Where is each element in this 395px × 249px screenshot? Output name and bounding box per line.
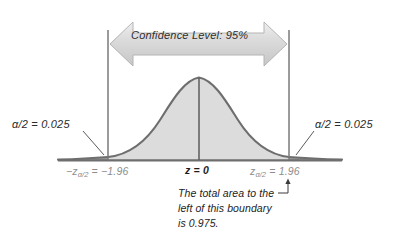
tick-right-value: = 1.96: [266, 165, 300, 177]
caption-line-3: is 0.975.: [178, 216, 274, 231]
tick-left-symbol: −z: [66, 165, 78, 177]
right-alpha-leader-line: [296, 131, 314, 155]
caption-leader-line: [278, 183, 288, 193]
caption-line-1: The total area to the: [178, 186, 274, 201]
alpha-right-label: α/2 = 0.025: [315, 118, 373, 131]
caption-block: The total area to the left of this bound…: [178, 186, 274, 231]
confidence-level-label: Confidence Level: 95%: [131, 29, 248, 42]
axis-tick-left-critical-value: −zα/2 = −1.96: [66, 165, 129, 180]
caption-line-2: left of this boundary: [178, 201, 274, 216]
tick-left-subscript: α/2: [78, 170, 89, 179]
alpha-left-label: α/2 = 0.025: [12, 118, 70, 131]
axis-tick-right-critical-value: zα/2 = 1.96: [250, 165, 300, 180]
tick-right-subscript: α/2: [255, 170, 266, 179]
normal-distribution-figure: Confidence Level: 95% α/2 = 0.025 α/2 = …: [0, 0, 395, 249]
axis-tick-center: z = 0: [185, 164, 209, 176]
tick-left-value: = −1.96: [88, 165, 128, 177]
left-alpha-leader-line: [83, 131, 104, 155]
